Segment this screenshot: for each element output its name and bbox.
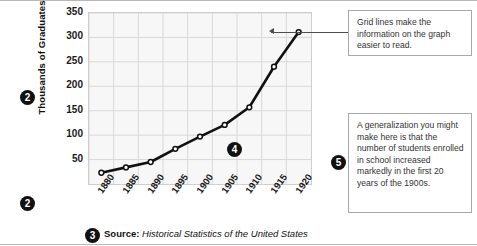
data-point-marker	[247, 105, 252, 110]
plot-area	[88, 12, 312, 185]
y-axis-tick-label: 300	[49, 30, 83, 41]
data-line-series	[101, 32, 298, 173]
figure-graph-reading-example: Thousands of Graduates 2 2 3 4 5 5010015…	[0, 0, 477, 246]
callout-generalization-note: A generalization you might make here is …	[348, 113, 472, 213]
y-axis-tick-label: 50	[49, 153, 83, 164]
data-point-marker	[124, 165, 129, 170]
line-chart-svg	[89, 13, 311, 184]
data-point-marker	[272, 64, 277, 69]
y-axis-tick-label: 150	[49, 104, 83, 115]
bullet-marker-2-x-axis: 2	[20, 196, 35, 211]
figure-bottom-rule	[0, 244, 477, 245]
data-point-marker	[198, 134, 203, 139]
bullet-marker-5-generalization: 5	[331, 155, 346, 170]
callout-gridlines-note: Grid lines make the information on the g…	[348, 10, 472, 56]
source-line: Source: Historical Statistics of the Uni…	[104, 228, 308, 239]
y-axis-tick-label: 350	[49, 6, 83, 17]
callout-leader-line	[271, 32, 349, 33]
source-citation: Historical Statistics of the United Stat…	[142, 228, 308, 239]
y-axis-tick-label: 250	[49, 55, 83, 66]
y-axis-tick-label: 200	[49, 79, 83, 90]
callout-leader-arrow-icon	[269, 28, 274, 34]
source-label: Source:	[104, 228, 139, 239]
bullet-marker-4-gridlines: 4	[227, 142, 242, 157]
y-axis-tick-label: 100	[49, 128, 83, 139]
data-point-marker	[173, 146, 178, 151]
bullet-marker-2-y-axis: 2	[20, 90, 35, 105]
y-axis-title: Thousands of Graduates	[36, 0, 47, 143]
data-point-marker	[222, 122, 227, 127]
data-point-marker	[148, 160, 153, 165]
figure-top-rule	[0, 0, 477, 1]
data-point-marker	[99, 170, 104, 175]
bullet-marker-3-source: 3	[85, 228, 100, 243]
